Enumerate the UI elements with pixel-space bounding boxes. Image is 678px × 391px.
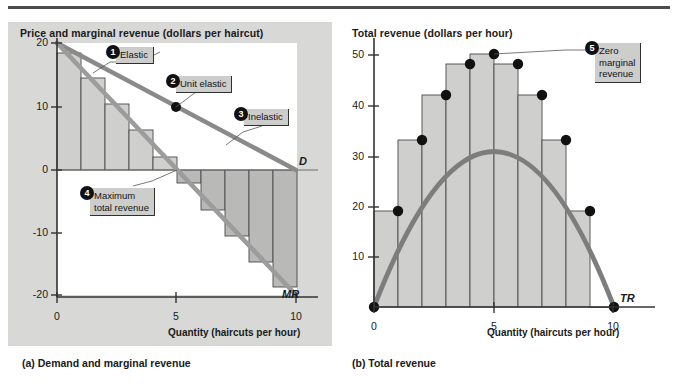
callout-badge-5: 5 (585, 41, 599, 55)
panel-a-ytick-10: 10 (22, 100, 48, 112)
callout-box-unit-elastic: Unit elastic (176, 76, 232, 93)
panel-a-xaxis-label: Quantity (haircuts per hour) (168, 327, 300, 338)
callout-badge-3: 3 (234, 107, 248, 121)
panel-b-caption: (b) Total revenue (352, 357, 436, 369)
marginal-revenue-curve-label: MR (282, 288, 299, 300)
panel-b-ytick-20: 20 (338, 200, 364, 212)
panel-b-tr-bars (374, 54, 614, 308)
callout-badge-2: 2 (166, 74, 180, 88)
panel-b-xtick-0: 0 (364, 320, 384, 332)
panel-b-ytick-30: 30 (338, 150, 364, 162)
figure-container: Price and marginal revenue (dollars per … (0, 0, 678, 391)
demand-curve-label: D (299, 155, 307, 167)
callout-4-leader (133, 170, 177, 186)
callout-box-inelastic: Inelastic (244, 109, 289, 126)
panel-a-ytick-neg20: -20 (16, 288, 48, 300)
callout-box-maximum-total-revenue: Maximum total revenue (90, 188, 155, 216)
panel-a-xtick-10: 10 (285, 310, 307, 322)
panel-a-ytick-20: 20 (22, 36, 48, 48)
panel-b-ytick-50: 50 (338, 48, 364, 60)
panel-b-ytick-40: 40 (338, 99, 364, 111)
panel-b-xaxis-label: Quantity (haircuts per hour) (487, 327, 619, 338)
panel-a-caption: (a) Demand and marginal revenue (22, 357, 191, 369)
callout-badge-4: 4 (80, 186, 94, 200)
total-revenue-curve-label: TR (620, 292, 635, 304)
callout-box-zero-marginal-revenue: Zero marginal revenue (595, 43, 641, 83)
panel-a-ytick-neg10: -10 (16, 226, 48, 238)
callout-box-elastic: Elastic (116, 47, 154, 64)
panel-a-xtick-0: 0 (47, 310, 67, 322)
panel-b-ytick-10: 10 (338, 250, 364, 262)
callout-5-leader (494, 50, 595, 54)
callout-badge-1: 1 (106, 45, 120, 59)
panel-a-ytick-0: 0 (22, 163, 48, 175)
panel-b-axis-title: Total revenue (dollars per hour) (352, 27, 513, 39)
panel-a-xtick-5: 5 (166, 310, 186, 322)
